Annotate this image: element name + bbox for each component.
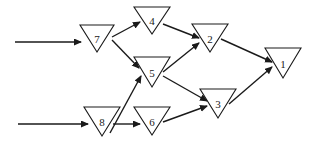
node-label: 7 [94,33,100,45]
node-7: 7 [80,25,114,52]
edge-7-to-5 [112,40,139,68]
node-8: 8 [84,107,120,136]
edge-3-to-1 [229,67,272,104]
nodes-layer: 12345678 [80,7,301,136]
node-label: 5 [149,67,155,79]
node-label: 8 [99,116,105,128]
edge-7-to-4 [112,22,140,37]
node-label: 4 [149,15,155,27]
node-4: 4 [134,7,170,34]
node-label: 6 [149,116,155,128]
edge-2-to-1 [221,39,272,62]
network-diagram: 12345678 [0,0,310,153]
node-label: 2 [207,33,213,45]
node-5: 5 [134,57,170,87]
node-label: 1 [280,58,286,70]
node-label: 3 [215,98,221,110]
node-1: 1 [265,48,301,78]
